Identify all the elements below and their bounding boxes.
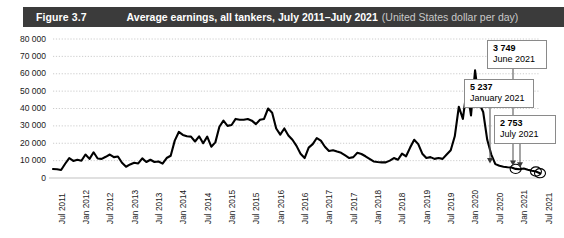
figure-title-bar: Figure 3.7 Average earnings, all tankers… <box>23 7 564 27</box>
x-axis-tick-label: Jan 2016 <box>276 190 286 224</box>
y-axis-tick-label: 70 000 <box>0 52 46 61</box>
chart-container: 80 00070 00060 00050 00040 00030 00020 0… <box>0 30 564 238</box>
x-axis-tick-label: Jul 2014 <box>203 193 213 224</box>
x-axis-tick-label: Jan 2012 <box>81 190 91 224</box>
x-axis-tick-label: Jan 2018 <box>373 190 383 224</box>
x-axis-tick-label: Jul 2011 <box>57 193 67 224</box>
x-axis-tick-label: Jan 2020 <box>470 190 480 224</box>
x-axis-tick-label: Jul 2020 <box>495 193 505 224</box>
x-axis-tick-label: Jan 2015 <box>227 190 237 224</box>
x-axis-tick-label: Jul 2019 <box>446 193 456 224</box>
x-axis-tick-label: Jul 2016 <box>300 193 310 224</box>
callout-box: 2 753July 2021 <box>494 115 556 144</box>
y-axis-tick-label: 20 000 <box>0 139 46 148</box>
y-axis-tick-label: 50 000 <box>0 87 46 96</box>
x-axis-tick-label: Jan 2013 <box>130 190 140 224</box>
y-axis-tick-label: 10 000 <box>0 156 46 165</box>
x-axis-tick-label: Jul 2015 <box>251 193 261 224</box>
figure-number: Figure 3.7 <box>36 11 87 23</box>
x-axis-tick-label: Jul 2018 <box>397 193 407 224</box>
callout-value: 5 237 <box>470 82 528 93</box>
callout-value: 3 749 <box>493 43 541 54</box>
y-axis-tick-label: 60 000 <box>0 69 46 78</box>
x-axis-tick-label: Jan 2021 <box>519 190 529 224</box>
callout-date: June 2021 <box>493 54 541 65</box>
x-axis-tick-label: Jul 2021 <box>544 193 554 224</box>
x-axis-tick-label: Jan 2014 <box>178 190 188 224</box>
callout-date: July 2021 <box>500 129 550 140</box>
callout-box: 5 237January 2021 <box>464 79 534 108</box>
x-axis-tick-label: Jul 2012 <box>105 193 115 224</box>
x-axis-tick-label: Jul 2013 <box>154 193 164 224</box>
x-axis-tick-label: Jan 2017 <box>324 190 334 224</box>
callout-box: 3 749June 2021 <box>487 40 547 69</box>
x-axis-tick-label: Jul 2017 <box>349 193 359 224</box>
y-axis-tick-label: 0 <box>0 174 46 183</box>
callout-date: January 2021 <box>470 93 528 104</box>
figure-unit-label: (United States dollar per day) <box>382 11 519 23</box>
highlight-point-markers <box>510 164 545 178</box>
y-axis-tick-label: 30 000 <box>0 121 46 130</box>
callout-value: 2 753 <box>500 118 550 129</box>
y-axis-tick-label: 40 000 <box>0 104 46 113</box>
x-axis-tick-label: Jan 2019 <box>422 190 432 224</box>
y-axis-tick-label: 80 000 <box>0 35 46 44</box>
figure-title: Average earnings, all tankers, July 2011… <box>127 11 378 23</box>
